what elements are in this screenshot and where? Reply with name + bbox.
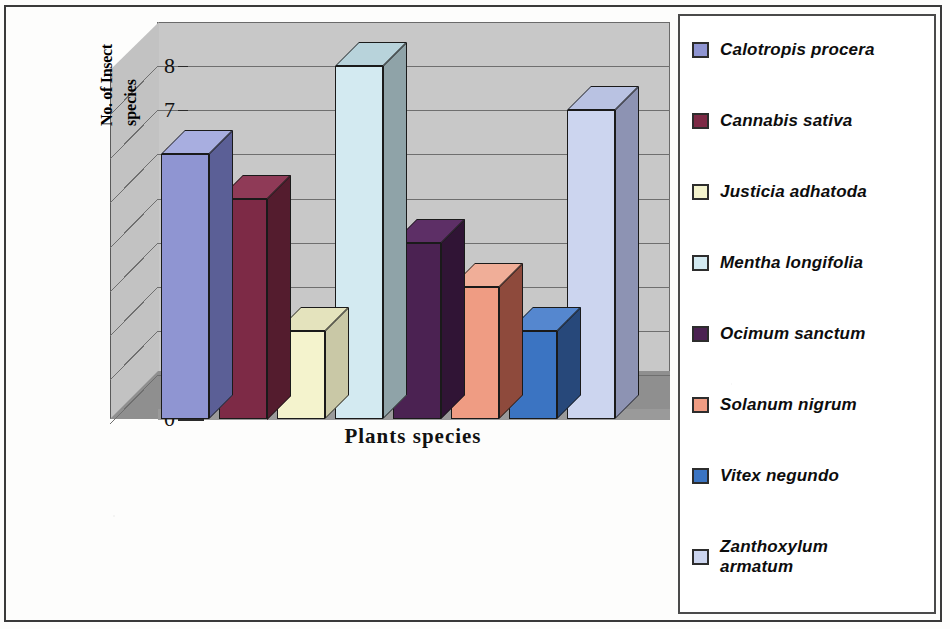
legend-item-label: Vitex negundo — [720, 466, 839, 486]
bar-side-face — [267, 175, 291, 420]
plot-area: 012345678 No. of Insect species Plants s… — [100, 14, 670, 434]
legend-swatch-icon — [692, 397, 709, 413]
legend-item-label: Solanum nigrum — [720, 395, 857, 415]
legend-swatch-icon — [692, 184, 709, 200]
figure-canvas: 012345678 No. of Insect species Plants s… — [0, 0, 950, 629]
legend-item-label: Cannabis sativa — [720, 111, 852, 131]
legend-swatch-icon — [692, 113, 709, 129]
y-axis-tick — [178, 66, 188, 67]
legend-swatch-icon — [692, 42, 709, 58]
legend-item-label: Ocimum sanctum — [720, 324, 865, 344]
legend-item-label: Calotropis procera — [720, 40, 875, 60]
bar-front-face — [161, 154, 209, 419]
legend-item[interactable]: Zanthoxylumarmatum — [692, 537, 930, 576]
legend-item-label: Zanthoxylumarmatum — [720, 537, 828, 576]
legend-item[interactable]: Solanum nigrum — [692, 395, 930, 415]
legend-item[interactable]: Mentha longifolia — [692, 253, 930, 273]
legend-item-label: Mentha longifolia — [720, 253, 863, 273]
bar-side-face — [209, 130, 233, 419]
bar-side-face — [615, 86, 639, 419]
chart-legend: Calotropis proceraCannabis sativaJustici… — [678, 14, 936, 614]
y-axis-title-line1: No. of Insect — [98, 44, 116, 126]
legend-swatch-icon — [692, 326, 709, 342]
legend-swatch-icon — [692, 549, 709, 565]
y-axis-tick-label: 8 — [145, 53, 175, 79]
bar-side-face — [499, 263, 523, 419]
y-axis-zero-tick — [178, 419, 204, 421]
y-axis-tick — [178, 110, 188, 111]
legend-item-label: Justicia adhatoda — [720, 182, 867, 202]
legend-swatch-icon — [692, 468, 709, 484]
legend-swatch-icon — [692, 255, 709, 271]
legend-item[interactable]: Cannabis sativa — [692, 111, 930, 131]
legend-item[interactable]: Calotropis procera — [692, 40, 930, 60]
bar-calotropis-procera — [161, 154, 209, 419]
bar-side-face — [441, 219, 465, 419]
legend-item[interactable]: Vitex negundo — [692, 466, 930, 486]
y-axis-tick-label: 7 — [145, 97, 175, 123]
legend-item[interactable]: Justicia adhatoda — [692, 182, 930, 202]
x-axis-title: Plants species — [268, 424, 558, 449]
bar-side-face — [383, 42, 407, 419]
y-axis-title-line2: species — [122, 79, 140, 126]
legend-item[interactable]: Ocimum sanctum — [692, 324, 930, 344]
